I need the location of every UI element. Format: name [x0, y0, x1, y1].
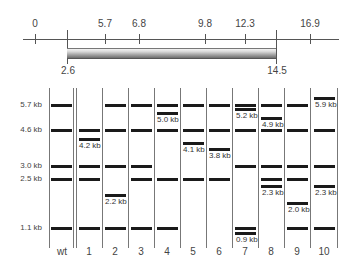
band-2-5 — [157, 178, 178, 181]
band-2-5 — [209, 178, 230, 181]
band-label: 2.3 kb — [262, 188, 284, 197]
tick-label-9-8: 9.8 — [198, 18, 212, 29]
tick-0 — [35, 34, 36, 44]
lane-label: 5 — [190, 246, 196, 257]
lane-separator — [49, 88, 50, 248]
band-1-1 — [51, 227, 72, 230]
map-axis-line — [23, 39, 339, 40]
band-label: 2.0 kb — [288, 205, 310, 214]
lane-label: 3 — [138, 246, 144, 257]
lane-separator — [180, 88, 181, 248]
insert-bar — [67, 48, 276, 59]
tick-label-12-3: 12.3 — [235, 18, 254, 29]
tick-9-8 — [205, 34, 206, 44]
band-1-1 — [105, 227, 126, 230]
band-5-7 — [183, 104, 204, 107]
lane-separator — [154, 88, 155, 248]
band-4-6 — [287, 129, 308, 132]
band-2-5 — [79, 178, 100, 181]
insert-end-label: 14.5 — [267, 65, 286, 76]
band-5-7 — [287, 104, 308, 107]
band-label: 4.1 kb — [183, 145, 205, 154]
band-label: 5.0 kb — [157, 115, 179, 124]
band-5-7 — [105, 104, 126, 107]
band-label: 0.9 kb — [236, 235, 258, 244]
tick-6-8 — [139, 34, 140, 44]
lane-separator — [232, 88, 233, 248]
band-label: 4.2 kb — [79, 141, 101, 150]
band-3-0 — [79, 165, 100, 168]
tick-12-3 — [245, 34, 246, 44]
band-4-6 — [131, 129, 152, 132]
lane-separator — [284, 88, 285, 248]
lane-separator — [73, 88, 74, 248]
band-1-1 — [287, 227, 308, 230]
lane-separator — [102, 88, 103, 248]
tick-16-9 — [310, 34, 311, 44]
lane-label: 7 — [242, 246, 248, 257]
band-4-6 — [261, 129, 282, 132]
tick-label-16-9: 16.9 — [300, 18, 319, 29]
band-4-6 — [209, 129, 230, 132]
lane-label: 10 — [318, 246, 329, 257]
lane-label: 9 — [294, 246, 300, 257]
band-5-7 — [261, 104, 282, 107]
band-3-0 — [261, 165, 282, 168]
size-marker-1-1: 1.1 kb — [0, 223, 42, 232]
size-marker-5-7: 5.7 kb — [0, 100, 42, 109]
band-1-1 — [79, 227, 100, 230]
band-5-7 — [235, 104, 256, 107]
tick-label-6-8: 6.8 — [132, 18, 146, 29]
band-4-6 — [79, 129, 100, 132]
band-5-7 — [131, 104, 152, 107]
lane-separator — [258, 88, 259, 248]
band-1-1 — [314, 227, 335, 230]
size-marker-2-5: 2.5 kb — [0, 174, 42, 183]
band-3-0 — [314, 165, 335, 168]
size-marker-4-6: 4.6 kb — [0, 125, 42, 134]
band-5-7 — [51, 104, 72, 107]
lane-separator — [128, 88, 129, 248]
band-2-5 — [51, 178, 72, 181]
band-1-1 — [131, 227, 152, 230]
band-3-0 — [105, 165, 126, 168]
lane-label: 8 — [268, 246, 274, 257]
band-5-7 — [209, 104, 230, 107]
band-1-1 — [235, 227, 256, 230]
band-2-5 — [287, 178, 308, 181]
band-4-6 — [51, 129, 72, 132]
band-3-0 — [287, 165, 308, 168]
band-label: 3.8 kb — [209, 151, 231, 160]
tick-5-7 — [105, 34, 106, 44]
band-2-5 — [131, 178, 152, 181]
lane-label: wt — [57, 246, 67, 257]
band-4-6 — [314, 129, 335, 132]
tick-label-0: 0 — [32, 18, 38, 29]
band-label: 5.2 kb — [236, 111, 258, 120]
lane-separator — [337, 88, 338, 248]
band-2-5 — [261, 178, 282, 181]
lane-label: 2 — [112, 246, 118, 257]
size-marker-3-0: 3.0 kb — [0, 161, 42, 170]
band-label: 2.3 kb — [315, 188, 337, 197]
band-4-6 — [183, 129, 204, 132]
band-label: 5.9 kb — [315, 100, 337, 109]
lane-separator — [206, 88, 207, 248]
lane-label: 6 — [216, 246, 222, 257]
band-5-7 — [157, 104, 178, 107]
band-4-6 — [235, 129, 256, 132]
band-4-6 — [105, 129, 126, 132]
band-3-0 — [235, 165, 256, 168]
lane-separator — [76, 88, 77, 248]
band-label: 2.2 kb — [105, 197, 127, 206]
band-1-1 — [157, 227, 178, 230]
band-3-0 — [51, 165, 72, 168]
insert-end-tick — [276, 30, 277, 64]
band-3-0 — [131, 165, 152, 168]
band-2-5 — [183, 178, 204, 181]
band-label: 4.9 kb — [262, 120, 284, 129]
lane-separator — [310, 88, 311, 248]
tick-label-5-7: 5.7 — [98, 18, 112, 29]
lane-label: 1 — [86, 246, 92, 257]
insert-start-label: 2.6 — [61, 65, 75, 76]
